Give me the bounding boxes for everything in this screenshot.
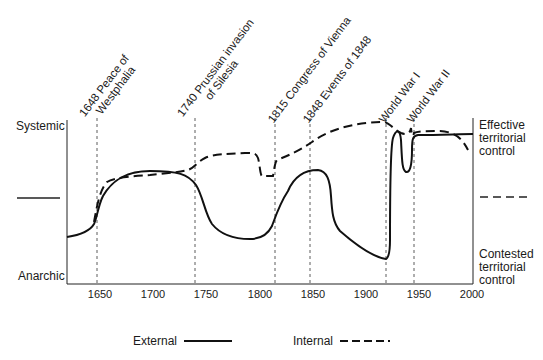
legend-solid-line-icon [184, 337, 234, 345]
contested-territorial-control-label: Contested territorial control [479, 248, 534, 287]
legend-external-label: External [133, 334, 177, 348]
external-series-line [67, 131, 473, 259]
legend-internal-label: Internal [293, 334, 333, 348]
x-tick-1800: 1800 [248, 288, 272, 300]
x-tick-1850: 1850 [301, 288, 325, 300]
legend-external: External [133, 334, 230, 348]
legend-dashed-line-icon [340, 337, 392, 345]
effective-line-3: control [479, 145, 526, 158]
contested-line-3: control [479, 274, 534, 287]
anarchic-label: Anarchic [18, 270, 65, 283]
event-lines [97, 118, 414, 284]
x-tick-1950: 1950 [407, 288, 431, 300]
chart-canvas [0, 0, 543, 360]
x-tick-1900: 1900 [354, 288, 378, 300]
effective-territorial-control-label: Effective territorial control [479, 119, 526, 158]
legend-internal: Internal [293, 334, 388, 348]
systemic-label: Systemic [16, 120, 65, 133]
x-tick-1700: 1700 [141, 288, 165, 300]
x-tick-1650: 1650 [88, 288, 112, 300]
x-tick-2000: 2000 [460, 288, 484, 300]
x-tick-1750: 1750 [194, 288, 218, 300]
